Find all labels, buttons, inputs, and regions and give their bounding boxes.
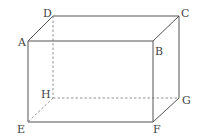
edge-bc — [153, 16, 179, 41]
vertex-label-a: A — [17, 36, 27, 49]
vertex-label-f: F — [153, 123, 161, 136]
edge-fg — [153, 98, 179, 122]
vertex-label-g: G — [182, 94, 191, 107]
vertex-label-c: C — [181, 7, 189, 20]
hidden-edge-he — [28, 98, 53, 122]
vertex-label-e: E — [17, 123, 25, 136]
hidden-edges — [28, 16, 179, 122]
vertex-label-h: H — [41, 88, 51, 101]
vertex-label-b: B — [155, 45, 163, 58]
cuboid-diagram: A B C D E F G H — [0, 0, 200, 140]
cuboid-svg: A B C D E F G H — [0, 0, 200, 140]
vertex-label-d: D — [43, 7, 52, 20]
visible-edges — [28, 16, 179, 122]
